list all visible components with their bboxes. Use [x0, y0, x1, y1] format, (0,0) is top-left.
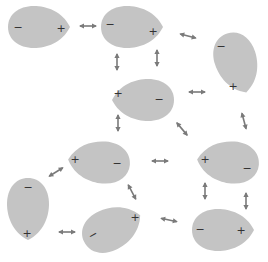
- attraction-arrow-icon: [79, 23, 97, 28]
- attraction-arrow-icon: [243, 192, 248, 210]
- molecule-8: [75, 196, 149, 260]
- positive-charge: +: [236, 224, 245, 237]
- molecule-4: [112, 79, 174, 121]
- negative-charge: −: [13, 21, 22, 34]
- attraction-arrow-icon: [151, 158, 169, 163]
- negative-charge: −: [105, 18, 114, 31]
- positive-charge: +: [56, 22, 65, 35]
- attraction-arrow-icon: [239, 112, 249, 131]
- attraction-arrow-icon: [160, 216, 179, 225]
- attraction-arrow-icon: [202, 182, 207, 200]
- positive-charge: +: [130, 211, 139, 224]
- molecule-2: − +: [101, 6, 163, 48]
- attraction-arrow-icon: [179, 31, 198, 41]
- attraction-arrow-icon: [188, 89, 206, 94]
- molecule-1: − +: [8, 6, 70, 48]
- attraction-arrow-icon: [174, 120, 190, 137]
- dipole-diagram: − + − + − + + − + − + − − + − + − +: [0, 0, 268, 262]
- negative-charge: −: [112, 157, 121, 170]
- negative-charge: −: [23, 181, 32, 194]
- attraction-arrow-icon: [154, 49, 159, 67]
- attraction-arrow-icon: [114, 53, 119, 71]
- positive-charge: +: [70, 153, 79, 166]
- negative-charge: −: [154, 93, 163, 106]
- positive-charge: +: [22, 227, 31, 240]
- positive-charge: +: [228, 80, 237, 93]
- positive-charge: +: [200, 153, 209, 166]
- attraction-arrow-icon: [47, 165, 65, 179]
- negative-charge: −: [242, 162, 251, 175]
- positive-charge: +: [113, 87, 122, 100]
- negative-charge: −: [216, 40, 225, 53]
- attraction-arrow-icon: [58, 229, 76, 234]
- attraction-arrow-icon: [115, 114, 120, 132]
- positive-charge: +: [148, 25, 157, 38]
- attraction-arrow-icon: [125, 183, 138, 201]
- negative-charge: −: [195, 223, 204, 236]
